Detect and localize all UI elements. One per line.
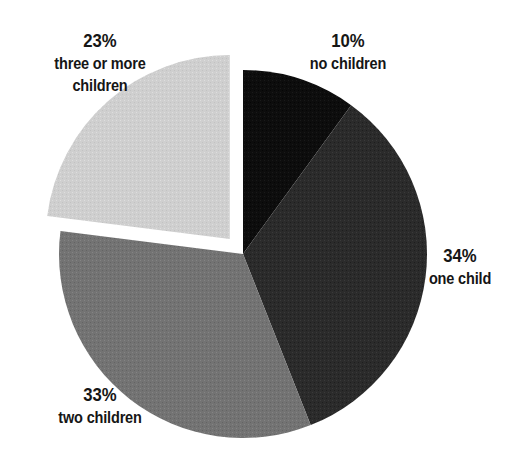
pie-label-category-line-2: children [12,75,188,97]
pie-label-category: no children [278,53,419,75]
pie-label-percent: 10% [278,28,419,53]
pie-label-category-line-1: three or more [12,53,188,75]
pie-label-category: one child [407,268,513,290]
pie-label-percent: 33% [21,382,179,407]
pie-label-two-children: 33% two children [21,382,179,429]
pie-label-three-or-more-children: 23% three or more children [12,28,188,97]
pie-label-category-line-1: two children [21,407,179,429]
pie-chart-figure: 23% three or more children 10% no childr… [0,0,520,467]
pie-label-category-line-1: one child [407,268,513,290]
pie-label-no-children: 10% no children [278,28,419,75]
pie-label-category: three or more children [12,53,188,97]
pie-label-percent: 34% [407,243,513,268]
pie-label-category: two children [21,407,179,429]
pie-label-percent: 23% [12,28,188,53]
pie-label-one-child: 34% one child [407,243,513,290]
pie-label-category-line-1: no children [278,53,419,75]
